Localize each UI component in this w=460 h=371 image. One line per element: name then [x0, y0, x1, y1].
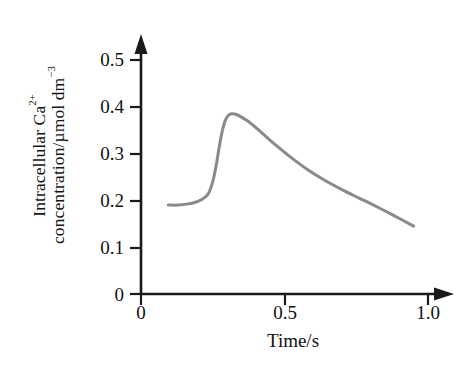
chart-figure: Intracellular Ca2+ concentration/µmol dm…: [0, 0, 460, 371]
x-axis-arrowhead: [434, 288, 454, 301]
axes-group: [130, 34, 454, 305]
plot-svg: [0, 0, 460, 371]
data-series-group: [168, 114, 413, 226]
y-axis-arrowhead: [135, 34, 148, 54]
series-line-calcium: [168, 114, 413, 226]
